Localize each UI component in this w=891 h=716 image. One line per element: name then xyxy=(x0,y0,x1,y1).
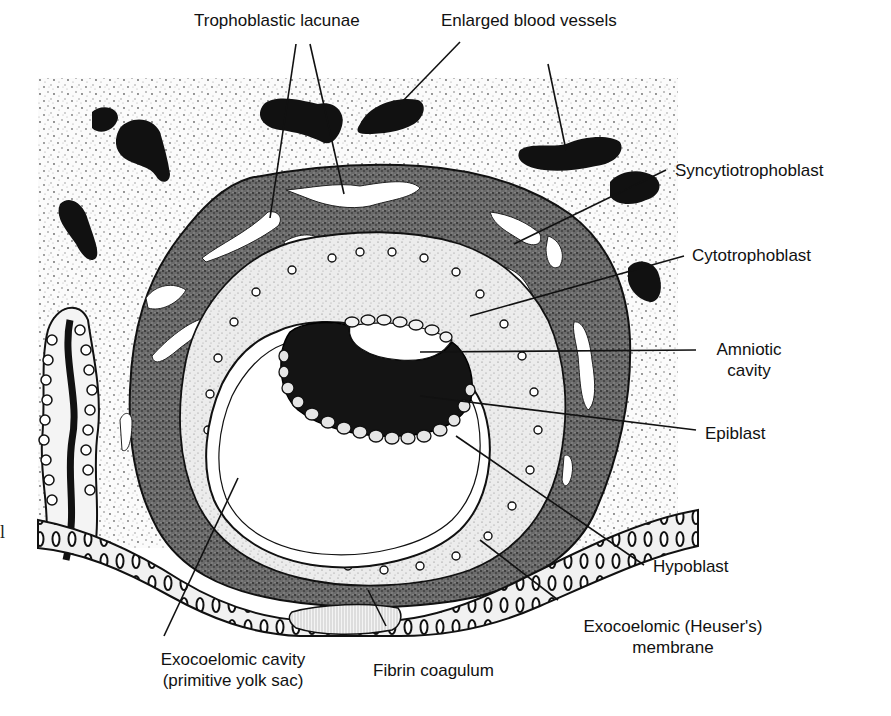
margin-character: l xyxy=(0,522,5,543)
label-exocoelomic-membrane-line1: Exocoelomic (Heuser's) xyxy=(560,616,786,637)
label-amniotic-cavity: Amniotic cavity xyxy=(704,339,794,381)
label-syncytiotrophoblast: Syncytiotrophoblast xyxy=(675,160,823,181)
label-hypoblast: Hypoblast xyxy=(653,556,729,577)
fibrin-coagulum xyxy=(289,605,401,635)
label-exocoelomic-cavity-line1: Exocoelomic cavity xyxy=(148,649,318,670)
label-amniotic-cavity-line2: cavity xyxy=(704,360,794,381)
label-enlarged-blood-vessels: Enlarged blood vessels xyxy=(441,10,617,31)
label-cytotrophoblast: Cytotrophoblast xyxy=(692,245,811,266)
label-amniotic-cavity-line1: Amniotic xyxy=(704,339,794,360)
label-exocoelomic-cavity-line2: (primitive yolk sac) xyxy=(148,670,318,691)
label-fibrin-coagulum: Fibrin coagulum xyxy=(373,660,494,681)
label-epiblast: Epiblast xyxy=(705,423,765,444)
label-trophoblastic-lacunae: Trophoblastic lacunae xyxy=(194,10,360,31)
label-exocoelomic-membrane-line2: membrane xyxy=(560,637,786,658)
label-exocoelomic-membrane: Exocoelomic (Heuser's) membrane xyxy=(560,616,786,658)
label-exocoelomic-cavity: Exocoelomic cavity (primitive yolk sac) xyxy=(148,649,318,691)
